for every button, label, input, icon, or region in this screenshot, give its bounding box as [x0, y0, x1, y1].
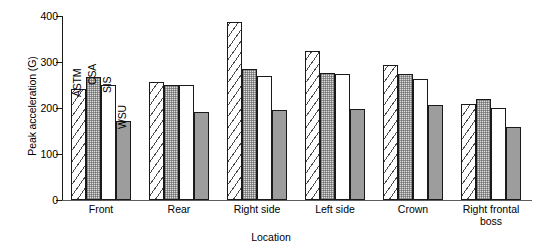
bar	[227, 22, 241, 200]
bar	[149, 82, 163, 200]
bar	[86, 77, 100, 200]
bar	[506, 127, 520, 200]
bar-chart-figure: Peak acceleration (G) 0100200300400 ASTM…	[0, 0, 542, 250]
bar	[242, 69, 256, 200]
bar	[398, 74, 412, 200]
bar	[257, 76, 271, 200]
bar	[116, 121, 130, 200]
x-axis-category-label: Right frontal boss	[446, 204, 536, 227]
bar	[350, 109, 364, 200]
x-axis-baseline	[62, 200, 532, 201]
x-axis-title: Location	[0, 231, 542, 243]
y-axis-title: Peak acceleration (G)	[26, 26, 38, 186]
bar	[335, 74, 349, 200]
bar	[101, 85, 115, 200]
plot-area: 0100200300400 ASTMCSASISWSU	[62, 16, 530, 200]
bar	[383, 65, 397, 200]
x-axis-category-label: Left side	[290, 204, 380, 216]
y-axis-tick-label: 100	[40, 148, 58, 160]
series-label-astm: ASTM	[71, 69, 83, 97]
bar	[491, 108, 505, 200]
bar	[164, 85, 178, 200]
y-axis-tick-label: 200	[40, 102, 58, 114]
x-axis-category-label: Front	[56, 204, 146, 216]
series-label-csa: CSA	[86, 64, 98, 85]
bar	[413, 79, 427, 200]
bar	[461, 104, 475, 200]
bar	[428, 105, 442, 200]
bar	[305, 51, 319, 200]
x-axis-category-label: Right side	[212, 204, 302, 216]
y-axis-tick-label: 400	[40, 10, 58, 22]
bar	[476, 99, 490, 200]
y-axis-tick-label: 300	[40, 56, 58, 68]
bar	[272, 110, 286, 200]
bar	[320, 73, 334, 200]
bar	[71, 89, 85, 200]
x-axis-category-label: Crown	[368, 204, 458, 216]
bar	[179, 85, 193, 200]
x-axis-category-label: Rear	[134, 204, 224, 216]
bar	[194, 112, 208, 200]
series-label-wsu: WSU	[116, 105, 128, 129]
series-label-sis: SIS	[101, 76, 113, 92]
